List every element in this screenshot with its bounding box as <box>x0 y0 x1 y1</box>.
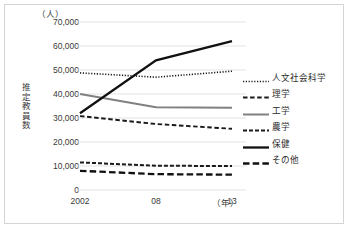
series-line-0 <box>80 71 232 77</box>
x-axis-unit-label: （年） <box>212 196 239 208</box>
x-tick-label: 2002 <box>60 196 100 206</box>
legend-item[interactable]: その他 <box>243 153 347 170</box>
legend-swatch-icon <box>243 89 269 100</box>
legend-label: 理学 <box>272 89 290 100</box>
legend-swatch-icon <box>243 106 269 117</box>
chart-legend: 人文社会科学理学工学農学保健その他 <box>243 70 347 169</box>
series-line-5 <box>80 171 232 175</box>
x-tick-label: 08 <box>136 196 176 206</box>
legend-item[interactable]: 工学 <box>243 103 347 120</box>
legend-label: その他 <box>272 155 299 166</box>
legend-label: 保健 <box>272 139 290 150</box>
series-line-3 <box>80 162 232 166</box>
legend-swatch-icon <box>243 73 269 84</box>
legend-item[interactable]: 理学 <box>243 87 347 104</box>
legend-item[interactable]: 農学 <box>243 120 347 137</box>
legend-item[interactable]: 人文社会科学 <box>243 70 347 87</box>
legend-swatch-icon <box>243 155 269 166</box>
legend-label: 人文社会科学 <box>272 73 326 84</box>
legend-swatch-icon <box>243 122 269 133</box>
legend-label: 工学 <box>272 106 290 117</box>
legend-label: 農学 <box>272 122 290 133</box>
line-chart: （人） 推定教員数 70,00060,00050,00040,00030,000… <box>0 0 350 229</box>
legend-item[interactable]: 保健 <box>243 136 347 153</box>
legend-swatch-icon <box>243 139 269 150</box>
